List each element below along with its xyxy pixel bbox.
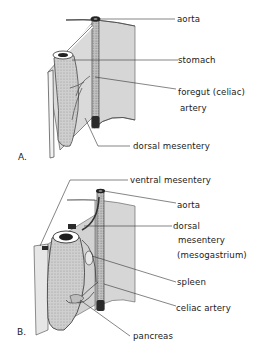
label-spleen: spleen (177, 277, 206, 287)
label-stomach-a: stomach (178, 55, 216, 65)
label-ventral-mesentery: ventral mesentery (130, 175, 211, 185)
label-dorsal-mesentery-line2: mesentery (178, 235, 225, 245)
label-dorsal-mesentery-line3: (mesogastrium) (177, 250, 247, 260)
label-dorsal-mesentery-line1: dorsal (173, 221, 200, 231)
ventral-mesentery-b (34, 244, 48, 335)
aorta-a (92, 18, 99, 128)
label-aorta-a: aorta (177, 14, 200, 24)
label-celiac-artery: celiac artery (176, 303, 231, 313)
label-pancreas: pancreas (133, 331, 173, 341)
panel-a-artwork (48, 17, 178, 158)
panel-label-a: A. (18, 152, 27, 162)
stomach-b (47, 233, 84, 330)
label-foregut-artery-line2: artery (180, 103, 207, 113)
panel-b-artwork (34, 180, 176, 336)
panel-label-b: B. (17, 327, 26, 337)
label-foregut-artery-line1: foregut (celiac) (178, 87, 245, 97)
label-aorta-b: aorta (177, 200, 200, 210)
label-dorsal-mesentery-a: dorsal mesentery (133, 141, 210, 151)
